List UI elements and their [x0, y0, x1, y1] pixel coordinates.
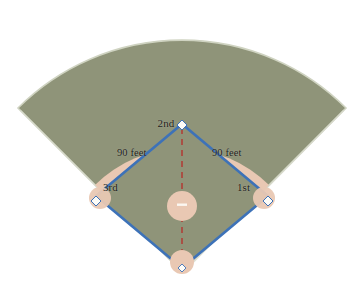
label-first-base: 1st: [237, 182, 250, 193]
baseball-field-diagram: 2nd 3rd 1st 90 feet 90 feet: [0, 0, 364, 281]
label-third-base: 3rd: [103, 182, 118, 193]
pitchers-mound: [167, 191, 197, 221]
field-graphic: [0, 0, 364, 281]
label-distance-third-to-second: 90 feet: [117, 148, 147, 159]
label-distance-second-to-first: 90 feet: [212, 148, 242, 159]
label-second-base: 2nd: [158, 118, 175, 129]
